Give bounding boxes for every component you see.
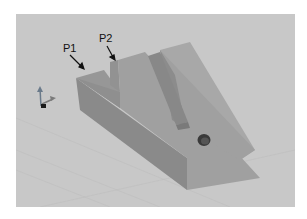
hole-inner: [201, 137, 209, 144]
axis-z-arrow-icon: [37, 86, 43, 92]
label-arrows: [70, 46, 115, 69]
label-p1: P1: [63, 43, 76, 54]
axis-triad: [37, 86, 56, 108]
model-viewport[interactable]: P1 P2: [16, 14, 295, 207]
axis-x-arrow-icon: [50, 96, 56, 101]
wedge-block-model: [16, 14, 295, 207]
axis-y-arrow-icon: [41, 104, 46, 108]
label-p2: P2: [99, 33, 112, 44]
